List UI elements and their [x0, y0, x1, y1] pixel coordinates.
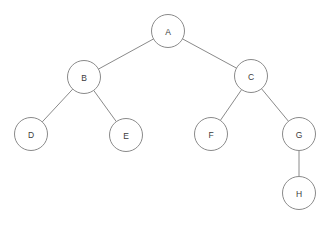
tree-node-circle-e[interactable] — [110, 119, 143, 152]
tree-node-circle-f[interactable] — [195, 118, 228, 151]
node-layer: ABCDEFGH — [15, 15, 316, 210]
tree-diagram-svg: ABCDEFGH — [0, 0, 329, 226]
tree-node-circle-h[interactable] — [283, 177, 316, 210]
tree-node-e[interactable]: E — [110, 119, 143, 152]
tree-node-circle-a[interactable] — [152, 15, 185, 48]
tree-node-b[interactable]: B — [68, 61, 101, 94]
tree-node-d[interactable]: D — [15, 118, 48, 151]
tree-node-circle-b[interactable] — [68, 61, 101, 94]
tree-node-circle-d[interactable] — [15, 118, 48, 151]
tree-edge-b-e — [94, 90, 117, 121]
tree-diagram-canvas: ABCDEFGH — [0, 0, 329, 226]
tree-edge-a-b — [98, 39, 153, 69]
edge-layer — [42, 39, 299, 177]
tree-edge-a-c — [183, 39, 237, 68]
tree-node-a[interactable]: A — [152, 15, 185, 48]
tree-node-c[interactable]: C — [235, 60, 268, 93]
tree-edge-b-d — [42, 89, 73, 122]
tree-node-h[interactable]: H — [283, 177, 316, 210]
tree-edge-c-g — [262, 89, 289, 122]
tree-node-f[interactable]: F — [195, 118, 228, 151]
tree-node-circle-g[interactable] — [283, 118, 316, 151]
tree-node-circle-c[interactable] — [235, 60, 268, 93]
tree-node-g[interactable]: G — [283, 118, 316, 151]
tree-edge-c-f — [220, 90, 241, 121]
